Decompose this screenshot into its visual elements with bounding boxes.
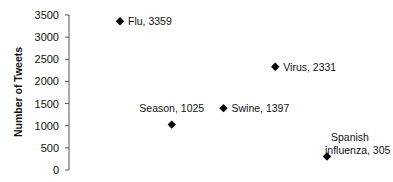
data-point-label: Spanishinfluenza, 305 — [325, 131, 391, 156]
y-tick-label: 2500 — [35, 53, 59, 65]
data-point-label: Virus, 2331 — [283, 61, 336, 73]
scatter-chart: 0500100015002000250030003500 Number of T… — [0, 0, 393, 182]
y-tick-label: 1500 — [35, 98, 59, 110]
y-axis-label: Number of Tweets — [12, 47, 24, 137]
data-points: Flu, 3359Season, 1025Swine, 1397Virus, 2… — [116, 15, 391, 160]
y-tick-label: 1000 — [35, 120, 59, 132]
y-axis: 0500100015002000250030003500 — [35, 9, 69, 176]
y-tick-label: 2000 — [35, 75, 59, 87]
data-point-marker — [116, 17, 124, 25]
y-tick-label: 3000 — [35, 31, 59, 43]
data-point-marker — [271, 63, 279, 71]
data-point-label: Season, 1025 — [139, 102, 204, 114]
data-point-marker — [219, 104, 227, 112]
y-tick-label: 3500 — [35, 9, 59, 21]
y-tick-label: 500 — [41, 142, 59, 154]
data-point-label: Swine, 1397 — [232, 102, 290, 114]
data-point-marker — [168, 120, 176, 128]
data-point-label: Flu, 3359 — [128, 15, 172, 27]
y-tick-label: 0 — [53, 164, 59, 176]
